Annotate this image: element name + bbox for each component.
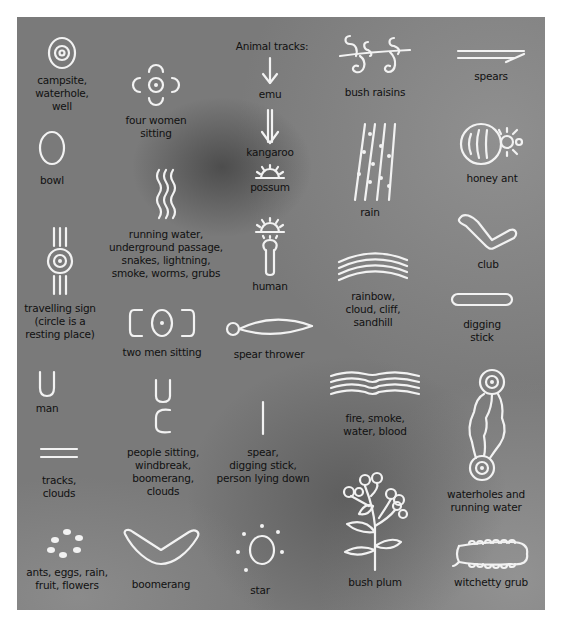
human-icon bbox=[253, 214, 287, 278]
bowl-icon bbox=[38, 130, 66, 166]
symbol-label: running water, underground passage, snak… bbox=[96, 228, 236, 280]
concentric-circles-icon bbox=[47, 36, 77, 70]
symbol-spear: spear, digging stick, person lying down bbox=[208, 400, 318, 485]
symbol-label: man bbox=[30, 402, 64, 415]
symbol-fire: fire, smoke, water, blood bbox=[328, 368, 422, 438]
symbol-star: star bbox=[228, 520, 292, 597]
symbol-label: campsite, waterhole, well bbox=[22, 74, 102, 113]
symbol-boomerang: boomerang bbox=[118, 528, 204, 591]
people-sitting-icon bbox=[152, 378, 174, 436]
wavy-lines-icon bbox=[154, 168, 178, 220]
spears-icon bbox=[456, 48, 526, 62]
symbol-waterholes: waterholes and running water bbox=[436, 368, 536, 514]
symbol-label: club bbox=[448, 258, 528, 271]
symbol-honey-ant: honey ant bbox=[450, 122, 534, 185]
symbol-campsite: campsite, waterhole, well bbox=[22, 36, 102, 113]
symbol-label: witchetty grub bbox=[446, 576, 536, 589]
symbol-ants: ants, eggs, rain, fruit, flowers bbox=[20, 528, 114, 592]
honey-ant-icon bbox=[459, 122, 525, 166]
symbol-four-women: four women sitting bbox=[108, 62, 204, 140]
symbol-label: spear thrower bbox=[214, 348, 324, 361]
symbol-possum: possum bbox=[236, 163, 304, 194]
rain-icon bbox=[345, 122, 395, 202]
symbol-label: four women sitting bbox=[108, 114, 204, 140]
symbol-label: fire, smoke, water, blood bbox=[328, 412, 422, 438]
symbol-label: kangaroo bbox=[236, 146, 304, 159]
symbol-label: bowl bbox=[30, 174, 74, 187]
symbol-label: spear, digging stick, person lying down bbox=[208, 446, 318, 485]
star-icon bbox=[232, 520, 288, 576]
symbol-running-water: running water, underground passage, snak… bbox=[96, 168, 236, 280]
tracks-icon bbox=[39, 446, 79, 460]
symbol-label: possum bbox=[236, 181, 304, 194]
rainbow-icon bbox=[337, 250, 409, 284]
club-icon bbox=[456, 212, 520, 252]
symbol-two-men: two men sitting bbox=[110, 306, 214, 359]
bush-plum-icon bbox=[335, 466, 415, 572]
symbol-human: human bbox=[236, 214, 304, 293]
digging-stick-icon bbox=[450, 292, 514, 308]
symbol-label: travelling sign (circle is a resting pla… bbox=[18, 302, 102, 341]
symbol-witchetty-grub: witchetty grub bbox=[446, 538, 536, 589]
symbol-label: star bbox=[228, 584, 292, 597]
symbol-rain: rain bbox=[335, 122, 405, 219]
symbol-bush-raisins: bush raisins bbox=[330, 32, 420, 99]
symbol-label: bush raisins bbox=[330, 86, 420, 99]
waterholes-running-water-icon bbox=[464, 368, 508, 482]
symbol-club: club bbox=[448, 212, 528, 271]
possum-track-icon bbox=[253, 163, 287, 181]
emu-track-icon bbox=[260, 56, 280, 86]
witchetty-grub-icon bbox=[451, 538, 531, 570]
symbol-label: rain bbox=[335, 206, 405, 219]
four-women-sitting-icon bbox=[126, 62, 186, 108]
symbol-rainbow: rainbow, cloud, cliff, sandhill bbox=[330, 250, 416, 329]
symbol-tracks: tracks, clouds bbox=[24, 446, 94, 500]
animal-tracks-heading: Animal tracks: bbox=[228, 40, 316, 53]
symbol-label: tracks, clouds bbox=[24, 474, 94, 500]
symbol-label: honey ant bbox=[450, 172, 534, 185]
symbol-label: people sitting, windbreak, boomerang, cl… bbox=[118, 446, 208, 498]
symbol-label: two men sitting bbox=[110, 346, 214, 359]
symbol-travelling-sign: travelling sign (circle is a resting pla… bbox=[18, 226, 102, 341]
two-men-sitting-icon bbox=[126, 306, 198, 340]
symbol-emu: emu bbox=[240, 56, 300, 101]
fire-smoke-icon bbox=[329, 368, 421, 398]
symbol-bush-plum: bush plum bbox=[328, 466, 422, 589]
symbol-spear-thrower: spear thrower bbox=[214, 316, 324, 361]
symbol-label: waterholes and running water bbox=[436, 488, 536, 514]
spear-line-icon bbox=[258, 400, 268, 436]
symbol-man: man bbox=[30, 370, 64, 415]
symbol-label: emu bbox=[240, 88, 300, 101]
symbol-label: spears bbox=[455, 70, 527, 83]
symbol-digging-stick: digging stick bbox=[448, 292, 516, 344]
symbol-kangaroo: kangaroo bbox=[236, 108, 304, 159]
symbol-label: rainbow, cloud, cliff, sandhill bbox=[330, 290, 416, 329]
man-icon bbox=[36, 370, 58, 398]
spear-thrower-icon bbox=[224, 316, 314, 340]
symbol-label: boomerang bbox=[118, 578, 204, 591]
travelling-sign-icon bbox=[45, 226, 75, 296]
symbol-bowl: bowl bbox=[30, 130, 74, 187]
symbol-label: human bbox=[236, 280, 304, 293]
boomerang-icon bbox=[121, 528, 201, 568]
symbol-label: digging stick bbox=[448, 318, 516, 344]
dots-icon bbox=[47, 528, 87, 560]
symbol-label: bush plum bbox=[328, 576, 422, 589]
kangaroo-track-icon bbox=[259, 108, 281, 146]
symbol-spears: spears bbox=[455, 48, 527, 83]
symbol-people-sitting: people sitting, windbreak, boomerang, cl… bbox=[118, 378, 208, 498]
bush-raisins-icon bbox=[338, 32, 412, 82]
symbol-label: ants, eggs, rain, fruit, flowers bbox=[20, 566, 114, 592]
